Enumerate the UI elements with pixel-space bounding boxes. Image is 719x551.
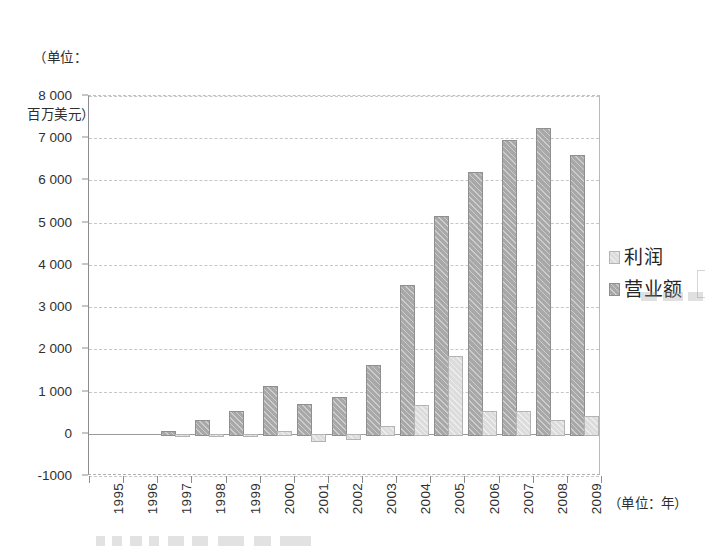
x-tick-mark-1997 [157,476,158,483]
x-tick-mark-1998 [191,476,192,483]
bar-revenue-2001 [297,404,312,436]
y-tick-label-1000: 1 000 [38,383,72,398]
bar-profit-2006 [482,411,497,436]
bar-revenue-1999 [229,411,244,436]
bar-profit-2000 [277,431,292,435]
x-tick-mark-2005 [430,476,431,483]
y-tick-label--1000: -1000 [37,468,72,483]
x-axis-unit-label: （单位：年） [608,492,688,512]
x-tick-label-1998: 1998 [213,483,228,514]
gridline-5000 [89,223,599,224]
bar-profit-2001 [311,434,326,442]
gridline-1000 [89,392,599,393]
gridline-4000 [89,265,599,266]
legend-swatch-profit-icon [609,251,620,264]
x-tick-label-2009: 2009 [589,483,604,514]
scan-artifact-bottom-caption [96,536,311,546]
x-tick-label-1997: 1997 [179,483,194,514]
x-tick-mark-2008 [533,476,534,483]
x-tick-mark-1995 [89,476,90,483]
gridline-6000 [89,180,599,181]
y-tick-label-8000: 8 000 [38,88,72,103]
x-tick-label-2006: 2006 [487,483,502,514]
x-tick-mark-2003 [362,476,363,483]
gridline-7000 [89,138,599,139]
y-tick-label-4000: 4 000 [38,256,72,271]
bar-profit-2004 [414,405,429,436]
bar-profit-2007 [516,411,531,436]
bar-profit-2008 [550,420,565,436]
x-tick-mark-1996 [123,476,124,483]
legend-item-profit[interactable]: 利润 [609,241,717,273]
bar-revenue-2000 [263,386,278,435]
x-tick-label-2003: 2003 [384,483,399,514]
bar-profit-1999 [243,434,258,438]
y-tick-label-6000: 6 000 [38,172,72,187]
y-tick-label-5000: 5 000 [38,214,72,229]
x-tick-mark-end [601,476,602,483]
y-tick-label-7000: 7 000 [38,130,72,145]
gridline--1000 [89,476,599,477]
x-tick-label-2002: 2002 [350,483,365,514]
bar-profit-1998 [209,434,224,438]
bar-revenue-1997 [161,431,176,436]
x-tick-mark-2000 [260,476,261,483]
bar-revenue-2007 [502,140,517,435]
bar-profit-2005 [448,356,463,436]
bar-revenue-2008 [536,128,551,436]
x-tick-mark-2002 [328,476,329,483]
legend-label-profit: 利润 [624,248,663,267]
x-axis-labels: 1995199619971998199920002001200220032004… [88,483,600,543]
x-tick-label-2001: 2001 [316,483,331,514]
bar-profit-2003 [380,426,395,436]
gridline-8000 [89,96,599,97]
x-tick-label-1995: 1995 [111,483,126,514]
y-tick-label-3000: 3 000 [38,299,72,314]
bar-revenue-2009 [570,155,585,436]
x-tick-label-2000: 2000 [282,483,297,514]
y-axis-labels: 8 0007 0006 0005 0004 0003 0002 0001 000… [0,95,82,475]
chart-plot-area [88,95,600,475]
gridline-2000 [89,349,599,350]
bar-revenue-2004 [400,285,415,436]
bar-revenue-2006 [468,172,483,436]
x-tick-label-1999: 1999 [248,483,263,514]
bar-revenue-2003 [366,365,381,435]
y-tick-label-0: 0 [64,425,72,440]
x-tick-label-2005: 2005 [452,483,467,514]
x-tick-mark-2004 [396,476,397,483]
x-tick-mark-2006 [464,476,465,483]
x-tick-mark-2007 [499,476,500,483]
x-tick-mark-2001 [294,476,295,483]
x-tick-mark-2009 [567,476,568,483]
scan-artifact-legend [641,292,703,301]
x-tick-label-2004: 2004 [418,483,433,514]
gridline-3000 [89,307,599,308]
x-tick-label-1996: 1996 [145,483,160,514]
y-tick-label-2000: 2 000 [38,341,72,356]
x-tick-label-2008: 2008 [555,483,570,514]
legend-swatch-revenue-icon [609,283,620,296]
bar-profit-1997 [175,434,190,438]
bar-profit-2002 [346,434,361,440]
bar-revenue-1998 [195,420,210,436]
bar-revenue-2002 [332,397,347,436]
y-axis-unit-line1: （单位： [27,48,95,67]
x-tick-label-2007: 2007 [521,483,536,514]
bar-revenue-2005 [434,216,449,435]
scan-artifact-legend-bracket [697,270,705,298]
x-tick-mark-1999 [226,476,227,483]
bar-profit-2009 [584,416,599,436]
